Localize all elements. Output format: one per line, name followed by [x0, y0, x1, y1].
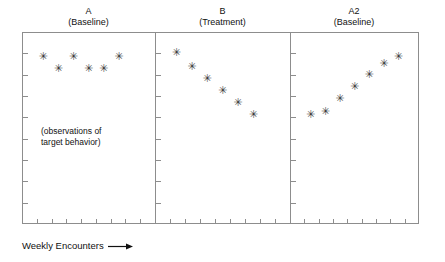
x-axis-tick — [333, 219, 334, 224]
data-point-marker: ✳ — [114, 51, 123, 62]
y-axis-tick — [23, 139, 28, 140]
y-axis-tick — [23, 117, 28, 118]
data-point-marker: ✳ — [54, 63, 63, 74]
panel-title-a2: A2 (Baseline) — [290, 6, 418, 28]
x-axis-tick — [275, 219, 276, 224]
y-axis-tick — [23, 160, 28, 161]
panel-phase-label-a2: A2 — [290, 6, 418, 17]
data-point-marker: ✳ — [350, 81, 359, 92]
x-axis-tick — [304, 219, 305, 224]
y-axis-tick — [156, 160, 161, 161]
y-axis-tick — [23, 96, 28, 97]
x-axis-tick — [185, 219, 186, 224]
observations-annotation: (observations of target behavior) — [41, 126, 101, 148]
x-axis-tick — [111, 219, 112, 224]
panel-divider-b-a2 — [290, 32, 291, 224]
y-axis-tick — [23, 203, 28, 204]
data-point-marker: ✳ — [69, 51, 78, 62]
y-axis-tick — [291, 117, 296, 118]
y-axis-tick — [23, 181, 28, 182]
y-axis-tick — [23, 53, 28, 54]
x-axis-tick — [405, 219, 406, 224]
data-point-marker: ✳ — [394, 51, 403, 62]
y-axis-tick — [156, 96, 161, 97]
data-point-marker: ✳ — [187, 60, 196, 71]
x-axis-tick — [52, 219, 53, 224]
data-point-marker: ✳ — [84, 63, 93, 74]
x-axis-tick — [376, 219, 377, 224]
y-axis-tick — [291, 181, 296, 182]
data-point-marker: ✳ — [233, 96, 242, 107]
data-point-marker: ✳ — [364, 69, 373, 80]
data-point-marker: ✳ — [379, 58, 388, 69]
x-axis-tick — [140, 219, 141, 224]
panel-phase-label-b: B — [155, 6, 290, 17]
y-axis-tick — [291, 160, 296, 161]
y-axis-tick — [23, 75, 28, 76]
x-axis-tick — [66, 219, 67, 224]
single-subject-aba-figure: A (Baseline) B (Treatment) A2 (Baseline)… — [0, 0, 445, 262]
y-axis-tick — [156, 181, 161, 182]
y-axis-tick — [156, 53, 161, 54]
y-axis-tick — [291, 203, 296, 204]
y-axis-tick — [156, 117, 161, 118]
panel-condition-label-a2: (Baseline) — [290, 17, 418, 28]
arrow-right-icon — [108, 241, 134, 251]
panel-title-b: B (Treatment) — [155, 6, 290, 28]
panel-condition-label-b: (Treatment) — [155, 17, 290, 28]
panel-divider-a-b — [155, 32, 156, 224]
x-axis-tick — [390, 219, 391, 224]
y-axis-tick — [156, 203, 161, 204]
y-axis-tick — [291, 75, 296, 76]
observations-annotation-line1: (observations of — [41, 126, 101, 137]
x-axis-caption: Weekly Encounters — [22, 240, 134, 252]
y-axis-tick — [156, 139, 161, 140]
data-point-marker: ✳ — [335, 93, 344, 104]
panel-phase-label-a: A — [22, 6, 155, 17]
x-axis-tick — [96, 219, 97, 224]
data-point-marker: ✳ — [249, 108, 258, 119]
panel-title-a: A (Baseline) — [22, 6, 155, 28]
x-axis-tick — [260, 219, 261, 224]
y-axis-tick — [291, 96, 296, 97]
data-point-marker: ✳ — [99, 63, 108, 74]
x-axis-tick — [200, 219, 201, 224]
data-point-marker: ✳ — [38, 51, 47, 62]
x-axis-caption-text: Weekly Encounters — [22, 240, 104, 252]
x-axis-tick — [81, 219, 82, 224]
observations-annotation-line2: target behavior) — [41, 137, 101, 148]
x-axis-tick — [230, 219, 231, 224]
y-axis-tick — [291, 53, 296, 54]
panel-condition-label-a: (Baseline) — [22, 17, 155, 28]
x-axis-tick — [347, 219, 348, 224]
data-point-marker: ✳ — [306, 108, 315, 119]
data-point-marker: ✳ — [218, 84, 227, 95]
x-axis-tick — [215, 219, 216, 224]
data-point-marker: ✳ — [321, 106, 330, 117]
y-axis-tick — [156, 75, 161, 76]
x-axis-tick — [245, 219, 246, 224]
data-point-marker: ✳ — [202, 72, 211, 83]
x-axis-tick — [37, 219, 38, 224]
x-axis-tick — [125, 219, 126, 224]
data-point-marker: ✳ — [172, 47, 181, 58]
y-axis-tick — [291, 139, 296, 140]
x-axis-tick — [362, 219, 363, 224]
x-axis-tick — [319, 219, 320, 224]
x-axis-tick — [170, 219, 171, 224]
